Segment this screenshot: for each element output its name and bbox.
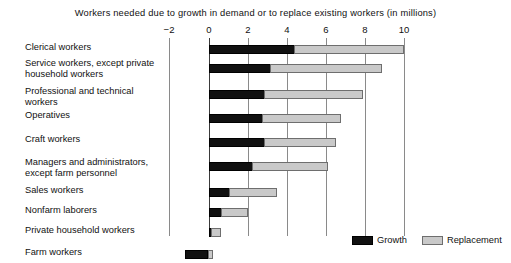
bar-row[interactable] <box>169 64 444 73</box>
category-label: Nonfarm laborers <box>25 205 165 216</box>
category-axis-labels: Clerical workersService workers, except … <box>0 38 165 236</box>
legend-swatch-growth <box>352 236 373 245</box>
category-label: Professional and technical workers <box>25 86 165 109</box>
x-tick-label: 6 <box>323 24 328 35</box>
category-label: Operatives <box>25 110 165 121</box>
x-tick-label: 4 <box>284 24 289 35</box>
bar-row[interactable] <box>169 114 444 123</box>
chart-legend: GrowthReplacement <box>352 234 502 246</box>
category-label: Managers and administrators, except farm… <box>25 157 165 180</box>
bar-series-group <box>169 38 444 236</box>
bar-row[interactable] <box>169 45 444 54</box>
category-label: Craft workers <box>25 134 165 145</box>
plot-area: −20246810 <box>169 38 444 236</box>
bar-segment-replacement[interactable] <box>294 45 404 54</box>
bar-row[interactable] <box>169 138 444 147</box>
bar-segment-replacement[interactable] <box>264 90 363 99</box>
bar-segment-replacement[interactable] <box>208 250 214 259</box>
category-label: Service workers, except private househol… <box>25 58 165 81</box>
x-tick-label: 8 <box>362 24 367 35</box>
x-tick-label: 10 <box>399 24 410 35</box>
bar-segment-growth[interactable] <box>209 162 254 171</box>
category-label: Sales workers <box>25 185 165 196</box>
bar-segment-replacement[interactable] <box>264 138 335 147</box>
bar-segment-growth[interactable] <box>185 250 208 259</box>
bar-segment-growth[interactable] <box>209 64 272 73</box>
legend-swatch-replacement <box>422 236 443 245</box>
legend-label-growth: Growth <box>377 235 407 245</box>
legend-label-replacement: Replacement <box>447 235 502 245</box>
bar-segment-replacement[interactable] <box>252 162 327 171</box>
bar-row[interactable] <box>169 250 444 259</box>
bar-segment-growth[interactable] <box>209 188 231 197</box>
x-tick-label: −2 <box>164 24 175 35</box>
x-tick-label: 0 <box>206 24 211 35</box>
chart-title: Workers needed due to growth in demand o… <box>0 8 511 18</box>
category-label: Farm workers <box>25 247 165 258</box>
bar-segment-replacement[interactable] <box>229 188 277 197</box>
bar-segment-growth[interactable] <box>209 45 295 54</box>
bar-segment-growth[interactable] <box>209 208 223 217</box>
category-label: Clerical workers <box>25 42 165 53</box>
bar-row[interactable] <box>169 162 444 171</box>
bar-segment-growth[interactable] <box>209 90 266 99</box>
bar-chart: Workers needed due to growth in demand o… <box>0 0 511 263</box>
bar-segment-replacement[interactable] <box>211 228 221 237</box>
bar-segment-replacement[interactable] <box>270 64 382 73</box>
bar-row[interactable] <box>169 208 444 217</box>
bar-segment-growth[interactable] <box>209 138 266 147</box>
x-tick-label: 2 <box>245 24 250 35</box>
category-label: Private household workers <box>25 225 165 236</box>
bar-row[interactable] <box>169 188 444 197</box>
bar-segment-growth[interactable] <box>209 114 264 123</box>
bar-segment-replacement[interactable] <box>221 208 247 217</box>
bar-row[interactable] <box>169 90 444 99</box>
bar-segment-replacement[interactable] <box>262 114 341 123</box>
